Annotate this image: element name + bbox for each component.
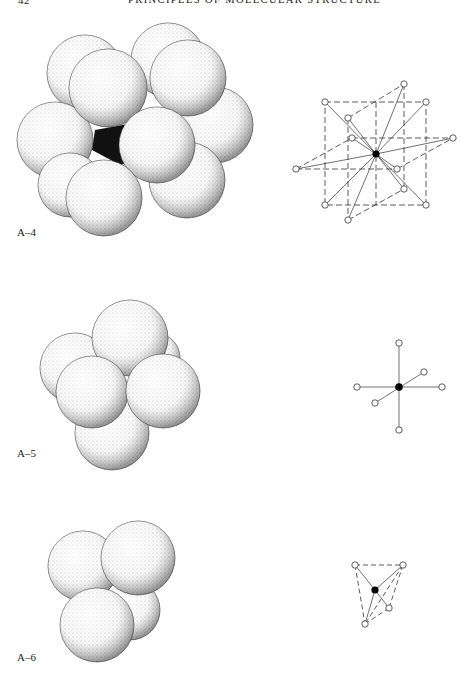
a6-bonds (355, 565, 403, 624)
a4-space-filling-model (17, 23, 253, 236)
a5-central-atom (395, 383, 403, 391)
figure-label-a4: A–4 (17, 226, 36, 238)
a4-spheres (17, 23, 253, 236)
a6-central-atom (371, 586, 378, 593)
figure-label-a6: A–6 (17, 651, 36, 663)
a5-space-filling-model (40, 300, 200, 470)
a4-central-atom (372, 150, 379, 157)
a6-coordination-diagram (352, 562, 406, 627)
figure-canvas (0, 0, 467, 677)
figure-label-a5: A–5 (17, 447, 36, 459)
a4-coordination-diagram (293, 81, 456, 223)
a6-space-filling-model (48, 521, 175, 662)
a5-coordination-diagram (354, 340, 445, 433)
